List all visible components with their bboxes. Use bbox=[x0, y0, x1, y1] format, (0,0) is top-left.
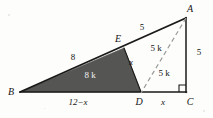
shaded-triangle-BED bbox=[20, 48, 141, 92]
geometry-figure: A B C D E 8 5 8 k x 5 k 5 k 5 12−x x bbox=[0, 0, 213, 118]
right-angle-mark-C bbox=[179, 85, 186, 92]
figure-canvas bbox=[0, 0, 213, 118]
edge-AD-dashed bbox=[141, 18, 186, 93]
